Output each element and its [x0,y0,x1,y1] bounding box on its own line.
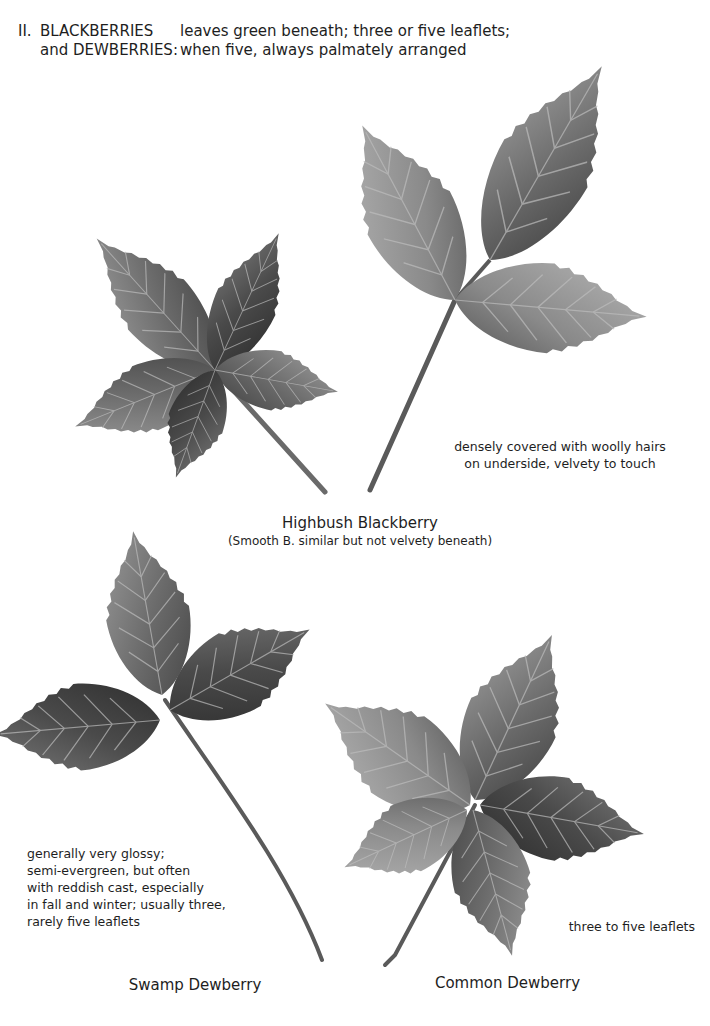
common-dewberry-caption: Common Dewberry [420,974,595,992]
note-line: generally very glossy; [27,845,257,862]
highbush-note: densely covered with woolly hairs on und… [430,438,690,472]
highbush-five-leaflet-image [0,120,360,500]
group-title-line2: and DEWBERRIES: [40,41,178,59]
note-line: semi-evergreen, but often [27,862,257,879]
swamp-dewberry-caption: Swamp Dewberry [110,976,280,994]
note-line: in fall and winter; usually three, [27,896,257,913]
note-line: with reddish cast, especially [27,879,257,896]
swamp-dewberry-note: generally very glossy; semi-evergreen, b… [27,845,257,930]
group-title-line1: BLACKBERRIES [40,22,153,40]
common-dewberry-note: three to five leaflets [545,918,695,935]
section-number: II. [18,22,40,41]
common-dewberry-image [325,605,655,970]
highbush-three-leaflet-image [320,25,700,495]
note-line: rarely five leaflets [27,913,257,930]
note-line: densely covered with woolly hairs [430,438,690,455]
note-line: on underside, velvety to touch [430,455,690,472]
